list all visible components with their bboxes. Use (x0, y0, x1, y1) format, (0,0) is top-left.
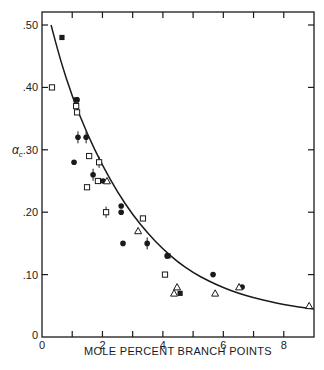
filled-circle-marker (210, 272, 216, 278)
y-tick-label: .20 (23, 206, 38, 218)
open-square-ticked-marker (97, 160, 102, 165)
open-square-marker (74, 104, 79, 109)
y-tick-label: .40 (23, 81, 38, 93)
filled-circle-marker (71, 159, 77, 165)
y-tick-label: .30 (23, 144, 38, 156)
filled-circle-marker (74, 97, 80, 103)
filled-circle-marker (164, 253, 170, 259)
open-triangle-marker (135, 227, 142, 233)
y-tick-label: .50 (23, 19, 38, 31)
y-tick-label: 0 (32, 329, 38, 341)
open-triangle-marker (306, 302, 313, 308)
filled-circle-ticked-marker (75, 135, 81, 141)
filled-square-marker (59, 35, 64, 40)
open-square-ticked-marker (103, 210, 108, 215)
fit-curve (51, 25, 314, 309)
filled-circle-ticked-marker (144, 241, 150, 247)
filled-circle-ticked-marker (90, 172, 96, 178)
filled-circle-ticked-marker (83, 135, 89, 141)
data-points (49, 35, 312, 309)
filled-circle-marker (120, 241, 126, 247)
open-triangle-marker (171, 290, 178, 296)
open-triangle-marker (212, 290, 219, 296)
chart-canvas: 024680.10.20.30.40.50 MOLE PERCENT BRANC… (0, 0, 324, 370)
filled-circle-marker (118, 209, 124, 215)
x-tick-label: 8 (281, 339, 287, 351)
axis-ticks: 024680.10.20.30.40.50 (23, 12, 314, 351)
filled-circle-marker (118, 203, 124, 209)
y-axis-label: αc (12, 143, 23, 159)
x-tick-label: 0 (39, 339, 45, 351)
open-square-marker (49, 85, 54, 90)
fit-curve-path (51, 25, 314, 309)
scatter-chart: 024680.10.20.30.40.50 MOLE PERCENT BRANC… (0, 0, 324, 370)
y-tick-label: .10 (23, 269, 38, 281)
open-square-marker (95, 178, 100, 183)
open-square-marker (87, 153, 92, 158)
open-square-marker (162, 272, 167, 277)
y-axis-label-subscript: c (19, 150, 23, 159)
open-square-marker (140, 216, 145, 221)
filled-square-marker (178, 291, 183, 296)
open-square-marker (84, 185, 89, 190)
open-square-marker (74, 110, 79, 115)
x-axis-label: MOLE PERCENT BRANCH POINTS (84, 345, 272, 357)
open-triangle-marker (174, 284, 181, 290)
